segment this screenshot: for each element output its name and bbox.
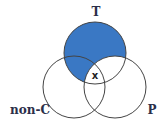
label-t: T xyxy=(92,5,101,19)
label-non-c: non-C xyxy=(10,103,50,117)
marker-x: x xyxy=(92,70,99,81)
label-p: P xyxy=(147,103,156,117)
circle-p xyxy=(84,56,146,118)
venn-diagram: T non-C P x xyxy=(0,0,164,126)
